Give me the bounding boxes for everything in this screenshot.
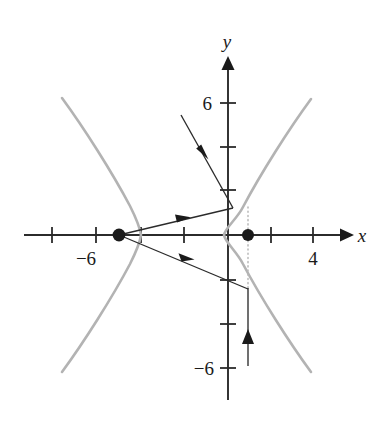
focus-point-left (113, 229, 126, 242)
x-tick-label-4: 4 (308, 248, 318, 269)
x-axis-arrowhead-icon (340, 229, 354, 242)
y-tick-label-6: 6 (203, 93, 213, 114)
plot-canvas: −6 4 6 −6 x y (0, 0, 379, 421)
incoming-ray-lower-arrowhead-icon (242, 329, 254, 344)
y-axis-arrowhead-icon (222, 56, 235, 70)
x-tick-label-negative-6: −6 (76, 248, 96, 269)
incoming-ray-upper (181, 115, 233, 208)
y-tick-label-negative-6: −6 (194, 358, 214, 379)
y-axis-label: y (221, 31, 232, 52)
hyperbola-reflection-figure: −6 4 6 −6 x y (0, 0, 379, 421)
focus-point-right (242, 229, 254, 241)
x-axis-label: x (357, 225, 367, 246)
